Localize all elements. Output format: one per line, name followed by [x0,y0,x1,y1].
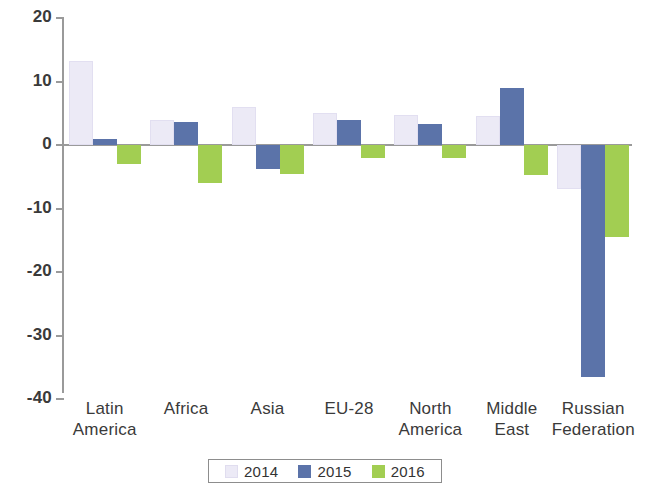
x-axis-label-line1: EU-28 [304,398,393,419]
y-axis-tick-label: -30 [4,325,52,345]
y-axis-tick [56,17,64,19]
x-axis-label-line2: America [386,419,475,440]
chart-legend: 201420152016 [208,459,442,483]
x-axis-label-line1: Africa [141,398,230,419]
legend-label: 2015 [317,463,351,480]
bar-2016 [198,145,222,183]
bar-2016 [361,145,385,158]
x-axis-label: NorthAmerica [386,398,475,440]
y-axis-tick-label: 10 [4,71,52,91]
y-axis-tick-label-wrap: -20 [0,261,52,281]
x-axis-label: MiddleEast [467,398,556,440]
bar-2014 [557,145,581,189]
x-axis-label: Africa [141,398,230,419]
bar-2014 [394,115,418,145]
legend-item[interactable]: 2015 [298,463,351,480]
y-axis-tick-label: 0 [4,134,52,154]
bar-2014 [476,116,500,145]
y-axis-tick-label-wrap: -40 [0,388,52,408]
bar-chart: 20100-10-20-30-40 LatinAmericaAfricaAsia… [0,0,649,487]
bar-2014 [313,113,337,145]
bar-2015 [418,124,442,145]
y-axis-tick-label: -20 [4,261,52,281]
bar-group [557,0,629,386]
y-axis-line [62,18,64,393]
legend-label: 2014 [244,463,278,480]
bar-group [394,0,466,386]
x-axis-label-line2: America [60,419,149,440]
x-axis-label-line1: Middle [467,398,556,419]
bar-group [232,0,304,386]
bar-2016 [442,145,466,158]
y-axis-tick [56,335,64,337]
y-axis-tick-label-wrap: -10 [0,198,52,218]
y-axis-tick-label: -10 [4,198,52,218]
x-axis-label-line2: East [467,419,556,440]
bar-2015 [337,120,361,145]
bar-group [313,0,385,386]
bar-2015 [500,88,524,145]
bar-2016 [605,145,629,237]
bar-2015 [174,122,198,145]
y-axis-tick-label: -40 [4,388,52,408]
y-axis-tick-label-wrap: 0 [0,134,52,154]
bar-2016 [117,145,141,164]
x-axis-label-line1: Asia [223,398,312,419]
x-axis-label: LatinAmerica [60,398,149,440]
bar-2014 [150,120,174,145]
y-axis-tick [56,271,64,273]
bar-2014 [232,107,256,145]
legend-item[interactable]: 2014 [225,463,278,480]
bar-2015 [93,139,117,145]
y-axis-tick-label: 20 [4,7,52,27]
x-axis-label: RussianFederation [549,398,638,440]
bar-group [476,0,548,386]
y-axis-tick-label-wrap: 20 [0,7,52,27]
bar-2016 [280,145,304,174]
x-axis-label: EU-28 [304,398,393,419]
legend-label: 2016 [391,463,425,480]
legend-swatch-icon [225,465,238,478]
bar-group [150,0,222,386]
bar-group [69,0,141,386]
y-axis-tick [56,81,64,83]
bar-2015 [581,145,605,377]
legend-swatch-icon [298,465,311,478]
x-axis-label-line1: North [386,398,475,419]
x-axis-label-line1: Latin [60,398,149,419]
x-axis-label-line2: Federation [549,419,638,440]
legend-swatch-icon [372,465,385,478]
bar-2014 [69,61,93,145]
bar-2016 [524,145,548,175]
bar-2015 [256,145,280,169]
x-axis-label: Asia [223,398,312,419]
legend-item[interactable]: 2016 [372,463,425,480]
x-axis-label-line1: Russian [549,398,638,419]
y-axis-tick-label-wrap: -30 [0,325,52,345]
y-axis-tick [56,208,64,210]
y-axis-tick-label-wrap: 10 [0,71,52,91]
